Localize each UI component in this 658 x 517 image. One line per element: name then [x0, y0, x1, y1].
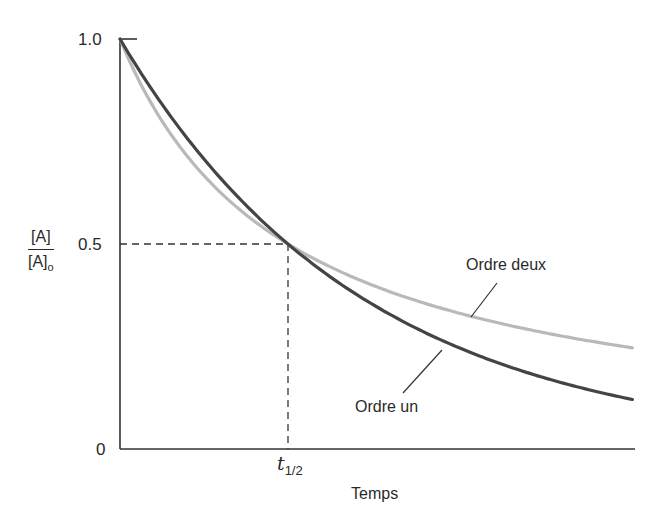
y-label-den-text: [A]	[28, 253, 48, 270]
y-tick-label-0: 0	[96, 440, 105, 460]
second-order-leader-line	[471, 283, 497, 317]
annotation-first-order: Ordre un	[355, 398, 418, 416]
y-tick-label-1: 1.0	[78, 30, 102, 50]
x-tick-label-half-life: t1/2	[277, 452, 303, 478]
t-subscript: 1/2	[285, 463, 303, 478]
annotation-second-order: Ordre deux	[466, 256, 546, 274]
series-first-order-line	[120, 39, 632, 400]
first-order-leader-line	[403, 350, 442, 393]
x-axis-label: Temps	[351, 485, 398, 503]
y-label-numerator: [A]	[28, 228, 54, 250]
t-symbol: t	[277, 452, 285, 474]
y-axis-label: [A] [A]o	[28, 228, 54, 273]
y-label-den-sub: o	[48, 261, 54, 273]
series-second-order-line	[120, 39, 632, 348]
half-life-guides	[120, 244, 288, 449]
y-label-denominator: [A]o	[28, 250, 54, 273]
y-tick-label-0-5: 0.5	[78, 235, 102, 255]
